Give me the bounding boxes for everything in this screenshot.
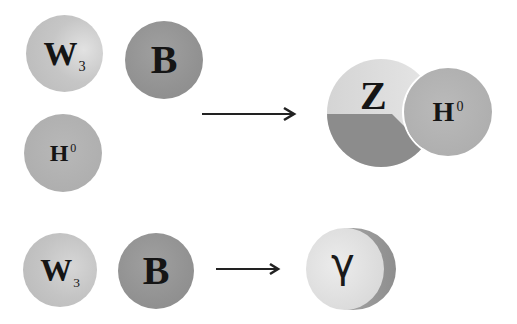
photon-label: γ [331, 243, 355, 283]
b-particle-top: B [125, 21, 203, 99]
higgs-symbol-right: H [433, 96, 455, 127]
z-label: Z [360, 76, 387, 116]
z-symbol: Z [360, 73, 387, 118]
photon-symbol: γ [331, 240, 355, 286]
b-particle-bottom: B [118, 233, 194, 309]
b-symbol-bottom: B [143, 248, 170, 293]
electroweak-diagram: W3 B H0 [0, 0, 517, 324]
w3-subscript: 3 [78, 58, 85, 74]
w3-symbol: W [43, 35, 77, 72]
b-label-bottom: B [143, 251, 170, 291]
higgs-superscript-right: 0 [456, 99, 463, 114]
higgs-label: H0 [50, 141, 77, 165]
w3-subscript-bottom: 3 [73, 275, 80, 290]
w3-symbol-bottom: W [40, 252, 72, 288]
higgs-particle-left: H0 [24, 114, 102, 192]
right-arrow-icon-bottom [214, 261, 282, 277]
b-label: B [151, 40, 178, 80]
w3-particle-top: W3 [26, 15, 103, 92]
higgs-label-right: H0 [433, 98, 464, 126]
photon-particle: γ [305, 227, 397, 311]
higgs-superscript: 0 [70, 141, 76, 155]
w3-label-bottom: W3 [40, 254, 80, 286]
right-arrow-icon [200, 106, 298, 122]
w3-label: W3 [43, 37, 85, 71]
higgs-particle-right: H0 [404, 68, 492, 156]
w3-particle-bottom: W3 [23, 233, 97, 307]
b-symbol: B [151, 37, 178, 82]
higgs-symbol: H [50, 140, 69, 166]
